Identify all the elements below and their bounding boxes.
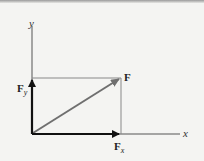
fx-label: Fx [114,140,125,155]
fy-label: Fy [17,82,28,97]
y-axis-label: y [28,17,34,29]
force-vector [33,79,119,133]
x-axis-label: x [182,127,188,139]
force-label: F [124,71,131,83]
force-component-diagram: y x F Fy Fx [0,0,204,161]
